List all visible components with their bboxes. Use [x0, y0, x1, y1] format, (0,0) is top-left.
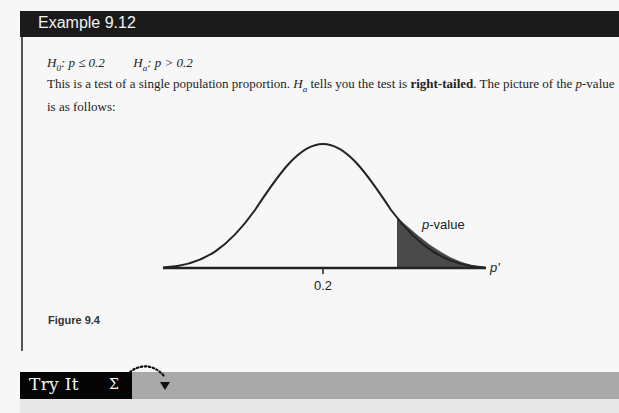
try-it-bar: [132, 372, 619, 399]
p-value-label: p-value: [421, 217, 465, 232]
textbook-page: Example 9.12 H0: p ≤ 0.2 Ha: p > 0.2 Thi…: [0, 0, 619, 413]
axis-label: p': [489, 260, 500, 275]
normal-distribution-figure: 0.2 p' p-value: [0, 0, 619, 413]
try-it-badge: Try It Σ: [20, 372, 132, 399]
dotted-arrow-icon: [126, 362, 176, 394]
try-it-label: Try It: [29, 374, 79, 394]
center-tick-label: 0.2: [314, 278, 332, 293]
figure-caption: Figure 9.4: [48, 314, 100, 326]
try-it-content-area: [20, 399, 619, 413]
normal-curve: [163, 144, 485, 268]
sigma-icon: Σ: [109, 376, 119, 392]
